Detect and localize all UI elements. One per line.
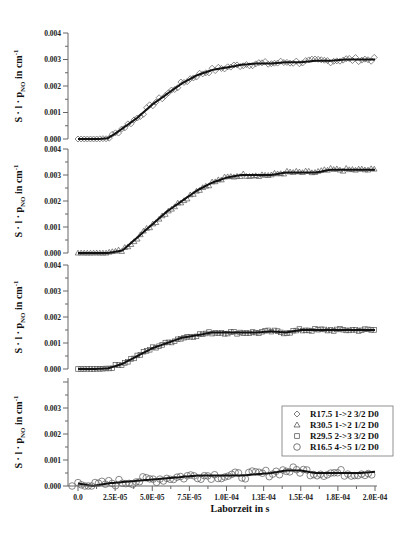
y-tick-label: 0.000 — [44, 365, 61, 374]
x-tick-label: 1.3E-04 — [251, 493, 276, 502]
y-tick-label: 0.003 — [44, 404, 61, 413]
y-tick-label: 0.003 — [44, 55, 61, 64]
stacked-scatter-chart: 0.0000.0010.0020.0030.004S · l · pNO in … — [0, 0, 408, 537]
y-axis-title: S · l · pNO in cm-1 — [12, 49, 27, 123]
legend-label: R17.5 1->2 3/2 D0 — [310, 409, 379, 419]
legend-label: R16.5 4->5 1/2 D0 — [310, 442, 379, 452]
y-tick-label: 0.001 — [44, 339, 61, 348]
x-tick-label: 5.0E-05 — [140, 493, 165, 502]
x-tick-label: 0.0 — [73, 493, 83, 502]
y-tick-label: 0.000 — [44, 249, 61, 258]
panel-1: 0.0000.0010.0020.0030.004S · l · pNO in … — [12, 29, 377, 144]
y-axis-title: S · l · pNO in cm-1 — [12, 164, 27, 238]
x-tick-label: 2.5E-05 — [103, 493, 128, 502]
data-points — [75, 165, 377, 255]
y-tick-label: 0.002 — [44, 197, 61, 206]
x-tick-label: 1.0E-04 — [214, 493, 239, 502]
y-tick-label: 0.004 — [44, 145, 61, 154]
fit-line — [78, 170, 375, 253]
y-tick-label: 0.001 — [44, 456, 61, 465]
legend: R17.5 1->2 3/2 D0R30.5 1->2 1/2 D0R29.5 … — [282, 406, 393, 456]
y-tick-label: 0.000 — [44, 135, 61, 144]
panel-3: 0.0000.0010.0020.0030.004S · l · pNO in … — [12, 261, 377, 374]
y-tick-label: 0.002 — [44, 430, 61, 439]
x-axis: 0.02.5E-055.0E-057.5E-051.0E-041.3E-041.… — [68, 486, 387, 502]
panel-2: 0.0000.0010.0020.0030.004S · l · pNO in … — [12, 145, 377, 258]
y-tick-label: 0.003 — [44, 171, 61, 180]
y-tick-label: 0.002 — [44, 313, 61, 322]
legend-label: R30.5 1->2 1/2 D0 — [310, 420, 379, 430]
y-tick-label: 0.001 — [44, 223, 61, 232]
x-tick-label: 7.5E-05 — [177, 493, 202, 502]
legend-label: R29.5 2->3 3/2 D0 — [310, 431, 379, 441]
y-tick-label: 0.004 — [44, 261, 61, 270]
x-tick-label: 2.0E-04 — [363, 493, 388, 502]
x-axis-title: Laborzeit in s — [211, 503, 270, 514]
y-tick-label: 0.001 — [44, 108, 61, 117]
y-axis-title: S · l · pNO in cm-1 — [12, 280, 27, 354]
x-tick-label: 1.5E-04 — [289, 493, 314, 502]
y-tick-label: 0.000 — [44, 482, 61, 491]
y-axis-title: S · l · pNO in cm-1 — [12, 395, 27, 469]
y-tick-label: 0.002 — [44, 82, 61, 91]
y-tick-label: 0.004 — [44, 29, 61, 38]
x-tick-label: 1.8E-04 — [326, 493, 351, 502]
y-tick-label: 0.003 — [44, 287, 61, 296]
